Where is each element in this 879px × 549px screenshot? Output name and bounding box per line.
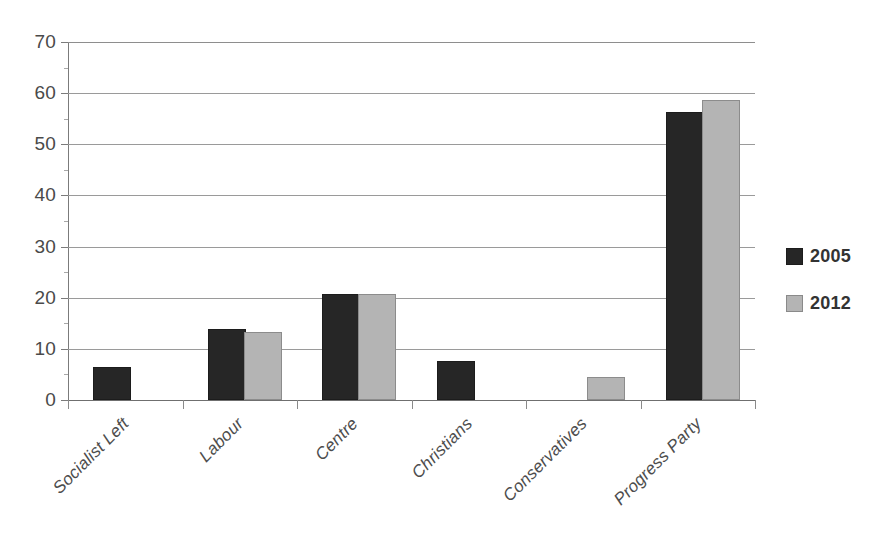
legend-item-2005: 2005 bbox=[786, 246, 874, 267]
x-axis-tick bbox=[755, 400, 756, 409]
x-axis-tick bbox=[68, 400, 69, 409]
bar-2012-labour bbox=[244, 332, 282, 400]
x-axis-label-socialist-left: Socialist Left bbox=[0, 414, 133, 549]
bar-group bbox=[412, 42, 527, 400]
y-axis-tick-label: 60 bbox=[12, 82, 56, 104]
bar-group bbox=[68, 42, 183, 400]
legend-item-label: 2005 bbox=[810, 246, 851, 267]
light-gray-square-swatch-icon bbox=[786, 295, 803, 312]
bar-group bbox=[297, 42, 412, 400]
y-axis-tick-label: 0 bbox=[12, 389, 56, 411]
bar-2012-progress-party bbox=[702, 100, 740, 400]
legend-item-2012: 2012 bbox=[786, 293, 874, 314]
x-axis-tick bbox=[297, 400, 298, 409]
x-axis-tick bbox=[183, 400, 184, 409]
y-tick-20 bbox=[61, 298, 68, 299]
bar-2005-centre bbox=[322, 294, 360, 400]
x-axis-tick bbox=[526, 400, 527, 409]
y-axis-tick-label: 20 bbox=[12, 287, 56, 309]
bar-2012-conservatives bbox=[587, 377, 625, 400]
y-axis-tick-label: 40 bbox=[12, 184, 56, 206]
y-axis-tick-label: 30 bbox=[12, 236, 56, 258]
bar-2005-socialist-left bbox=[93, 367, 131, 400]
y-tick-60 bbox=[61, 93, 68, 94]
dark-square-swatch-icon bbox=[786, 248, 803, 265]
y-tick-10 bbox=[61, 349, 68, 350]
y-tick-40 bbox=[61, 195, 68, 196]
bar-2012-centre bbox=[358, 294, 396, 400]
plot-area bbox=[68, 42, 755, 400]
y-tick-50 bbox=[61, 144, 68, 145]
y-axis-tick-labels: 706050403020100 bbox=[8, 42, 56, 400]
y-axis-tick-label: 70 bbox=[12, 31, 56, 53]
bar-chart: 706050403020100 Socialist LeftLabourCent… bbox=[0, 0, 879, 549]
x-axis-tick bbox=[412, 400, 413, 409]
y-tick-70 bbox=[61, 42, 68, 43]
y-axis-tick-label: 50 bbox=[12, 133, 56, 155]
legend: 2005 2012 bbox=[786, 246, 874, 340]
x-axis-tick bbox=[641, 400, 642, 409]
bar-group bbox=[183, 42, 298, 400]
y-tick-0 bbox=[61, 400, 68, 401]
bar-group bbox=[641, 42, 756, 400]
y-axis-tick-label: 10 bbox=[12, 338, 56, 360]
bar-2005-labour bbox=[208, 329, 246, 400]
bar-2005-christians bbox=[437, 361, 475, 400]
bar-2005-progress-party bbox=[666, 112, 704, 400]
bar-group bbox=[526, 42, 641, 400]
y-tick-30 bbox=[61, 247, 68, 248]
legend-item-label: 2012 bbox=[810, 293, 851, 314]
